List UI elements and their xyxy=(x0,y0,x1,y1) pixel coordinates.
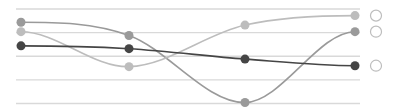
series-lines xyxy=(21,16,355,103)
data-point[interactable] xyxy=(125,62,134,71)
data-point[interactable] xyxy=(17,18,26,27)
legend[interactable] xyxy=(371,10,382,71)
data-point[interactable] xyxy=(351,11,360,20)
data-point[interactable] xyxy=(351,61,360,70)
data-point[interactable] xyxy=(241,21,250,30)
data-point[interactable] xyxy=(17,27,26,36)
data-point[interactable] xyxy=(241,98,250,107)
legend-marker-icon[interactable] xyxy=(371,60,382,71)
legend-marker-icon[interactable] xyxy=(371,26,382,37)
line-chart xyxy=(0,0,401,112)
data-point[interactable] xyxy=(125,44,134,53)
series-line-1 xyxy=(21,22,355,102)
data-point[interactable] xyxy=(125,31,134,40)
data-point[interactable] xyxy=(241,55,250,64)
data-point[interactable] xyxy=(351,27,360,36)
data-point[interactable] xyxy=(17,41,26,50)
legend-marker-icon[interactable] xyxy=(371,10,382,21)
